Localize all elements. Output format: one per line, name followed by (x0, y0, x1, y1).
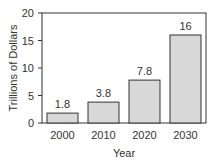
data-label: 7.8 (137, 65, 152, 77)
bar-chart: 05101520 1.83.87.816 2000201020202030 Tr… (0, 0, 215, 164)
x-tick-label: 2000 (50, 129, 74, 141)
x-axis-label: Year (113, 147, 136, 159)
x-tick-label: 2030 (173, 129, 197, 141)
bar-2000 (47, 113, 78, 123)
y-axis-ticks: 05101520 (22, 7, 42, 129)
data-label: 16 (179, 20, 191, 32)
data-label: 3.8 (96, 87, 111, 99)
y-tick-label: 20 (22, 7, 34, 19)
bar-2030 (170, 35, 201, 123)
x-tick-label: 2010 (91, 129, 115, 141)
y-tick-label: 0 (28, 117, 34, 129)
x-tick-label: 2020 (132, 129, 156, 141)
bar-2010 (88, 102, 119, 123)
x-axis-tick-labels: 2000201020202030 (50, 129, 197, 141)
y-axis-label: Trillions of Dollars (7, 24, 19, 112)
y-tick-label: 15 (22, 35, 34, 47)
bar-2020 (129, 80, 160, 123)
y-tick-label: 10 (22, 62, 34, 74)
data-label: 1.8 (55, 98, 70, 110)
y-tick-label: 5 (28, 90, 34, 102)
